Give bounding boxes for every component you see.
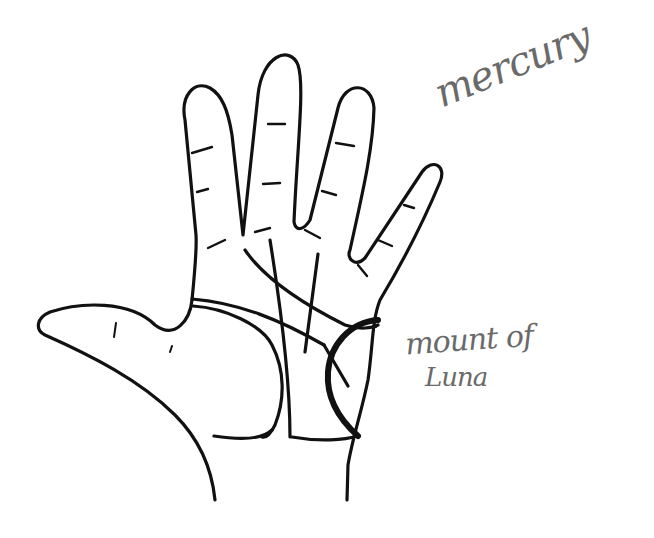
hand-outline bbox=[38, 55, 441, 500]
label-luna: Luna bbox=[425, 362, 487, 392]
finger-creases bbox=[192, 124, 414, 276]
hand-diagram bbox=[0, 0, 654, 538]
mount-of-luna-arc bbox=[328, 320, 378, 436]
